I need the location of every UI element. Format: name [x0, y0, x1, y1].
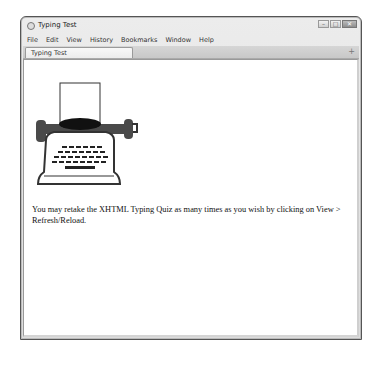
title-bar[interactable]: Typing Test – □ ✕: [21, 17, 361, 33]
typewriter-image: [32, 80, 138, 190]
tab-typing-test[interactable]: Typing Test: [25, 47, 133, 58]
window-controls: – □ ✕: [318, 20, 357, 28]
maximize-button[interactable]: □: [330, 20, 341, 28]
minimize-button[interactable]: –: [318, 20, 329, 28]
menu-bookmarks[interactable]: Bookmarks: [117, 35, 161, 45]
browser-window: Typing Test – □ ✕ File Edit View History…: [20, 16, 362, 340]
close-icon: ✕: [343, 20, 356, 28]
app-icon: [27, 22, 35, 30]
page-content: You may retake the XHTML Typing Quiz as …: [23, 59, 359, 337]
window-title: Typing Test: [38, 21, 77, 29]
menu-window[interactable]: Window: [161, 35, 195, 45]
menu-file[interactable]: File: [23, 35, 42, 45]
retake-instructions: You may retake the XHTML Typing Quiz as …: [32, 205, 352, 226]
maximize-icon: □: [331, 20, 340, 28]
menu-history[interactable]: History: [86, 35, 117, 45]
menu-edit[interactable]: Edit: [42, 35, 63, 45]
tab-bar: Typing Test +: [23, 46, 359, 59]
menu-help[interactable]: Help: [195, 35, 218, 45]
tab-label: Typing Test: [31, 49, 67, 58]
minimize-icon: –: [319, 20, 328, 28]
menu-bar: File Edit View History Bookmarks Window …: [23, 35, 359, 45]
close-button[interactable]: ✕: [342, 20, 357, 28]
menu-view[interactable]: View: [62, 35, 85, 45]
new-tab-button[interactable]: +: [348, 46, 355, 57]
